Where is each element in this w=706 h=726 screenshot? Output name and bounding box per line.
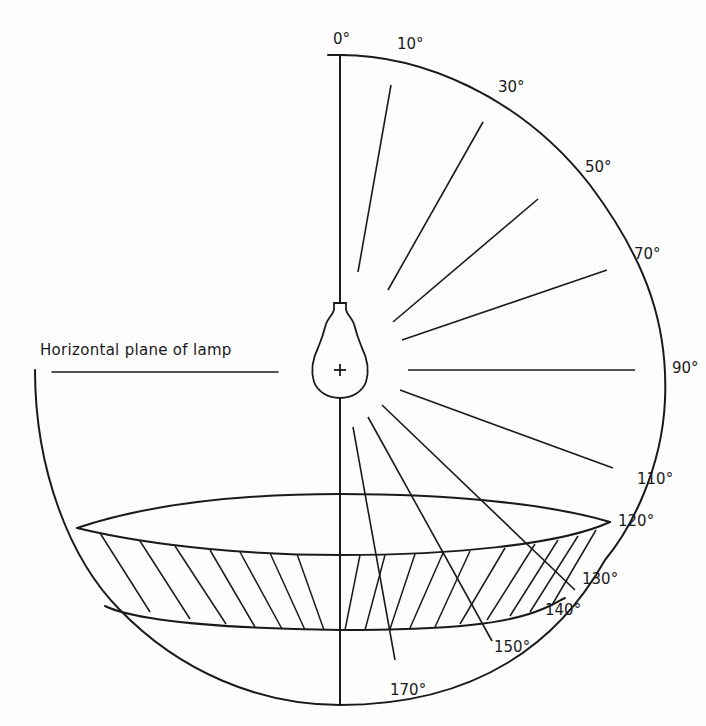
cone-top-front-edge	[77, 522, 610, 555]
sphere-outline-right	[340, 55, 665, 705]
angle-label: 130°	[582, 572, 618, 587]
ray-170-deg	[353, 427, 395, 660]
cone-bottom-edge	[105, 598, 565, 630]
angle-label: 110°	[637, 472, 673, 487]
angle-label: 10°	[397, 37, 424, 52]
sphere-outline-left	[35, 370, 340, 705]
angle-label: 70°	[634, 247, 661, 262]
cone-top-back-edge	[77, 494, 610, 528]
angle-label: 120°	[618, 514, 654, 529]
ray-10-deg	[358, 85, 391, 272]
angle-label: 170°	[390, 683, 426, 698]
angle-label: 90°	[672, 361, 699, 376]
ray-70-deg	[402, 270, 607, 340]
horizontal-plane-caption: Horizontal plane of lamp	[40, 343, 232, 358]
diagram-drawing	[0, 0, 706, 726]
angle-label: 150°	[494, 640, 530, 655]
ray-130-deg	[382, 405, 575, 590]
angle-label: 140°	[545, 603, 581, 618]
angle-label: 30°	[498, 80, 525, 95]
angle-label: 0°	[333, 32, 350, 47]
ray-50-deg	[393, 199, 538, 322]
lamp-bulb-icon	[312, 303, 367, 398]
ray-110-deg	[400, 390, 613, 468]
ray-30-deg	[388, 122, 483, 290]
angle-label: 50°	[585, 160, 612, 175]
lamp-luminous-intensity-diagram: Horizontal plane of lamp 0°10°30°50°70°9…	[0, 0, 706, 726]
